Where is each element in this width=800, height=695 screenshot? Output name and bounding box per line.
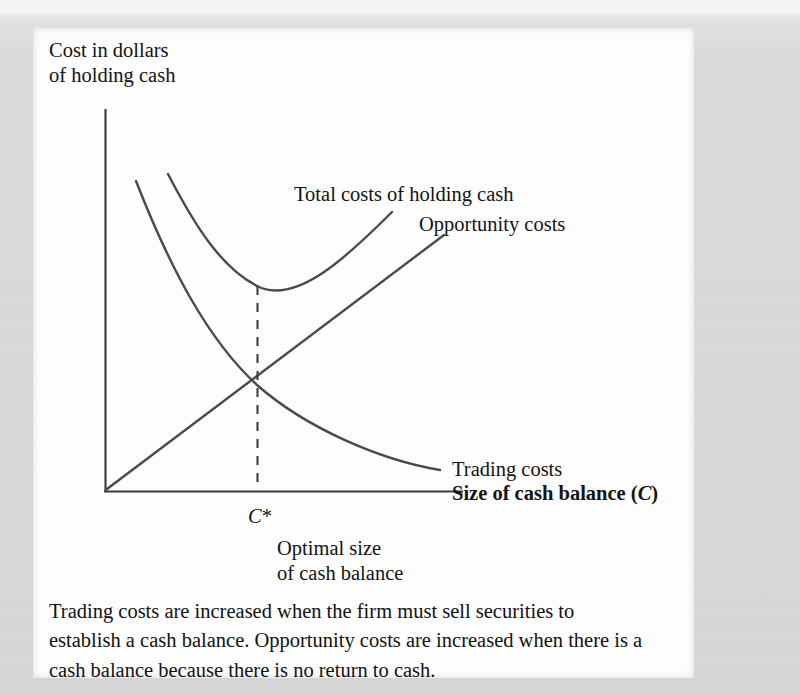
x-axis-title-text: Size of cash balance ( [452, 482, 638, 504]
x-axis-title-close: ) [651, 482, 658, 504]
c-star-tick-label: C* [248, 504, 272, 529]
x-axis-title: Size of cash balance (C) [452, 481, 658, 506]
y-axis-title: Cost in dollars of holding cash [49, 38, 175, 89]
page-top-edge [0, 0, 800, 14]
c-star-variable: C [248, 505, 262, 527]
annotation-opportunity-costs: Opportunity costs [419, 212, 565, 237]
figure-caption: Trading costs are increased when the fir… [49, 597, 649, 685]
annotation-total-costs: Total costs of holding cash [294, 182, 513, 207]
c-star-asterisk: * [262, 505, 272, 527]
optimal-size-caption: Optimal size of cash balance [277, 536, 403, 587]
annotation-trading-costs: Trading costs [452, 457, 562, 482]
x-axis-title-variable: C [638, 482, 652, 504]
